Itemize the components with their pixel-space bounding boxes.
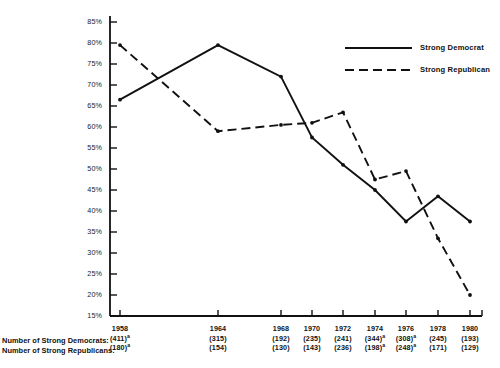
data-point [404, 169, 408, 173]
data-point [373, 178, 377, 182]
y-axis-tick-label: 55% [68, 143, 102, 152]
data-point [216, 43, 220, 47]
footer-count-number: (198) [365, 343, 382, 352]
x-axis-year-label: 1964 [194, 324, 242, 334]
chart-screenshot: 85%80%75%70%65%60%55%50%45%40%35%30%25%2… [0, 0, 500, 368]
y-axis-tick-label: 20% [68, 290, 102, 299]
y-axis-tick-label: 75% [68, 59, 102, 68]
footer-label-republicans: Number of Strong Republicans: [2, 346, 115, 356]
footnote-marker: a [127, 342, 130, 348]
chart-axes [110, 16, 482, 316]
footer-count-value: (315) [194, 334, 242, 344]
data-point [373, 188, 377, 192]
footer-count-number: (171) [429, 343, 446, 352]
footer-count-number: (344) [365, 334, 382, 343]
x-axis-column: 1964(315)(154) [194, 324, 242, 353]
footer-count-number: (241) [334, 334, 351, 343]
data-point [310, 136, 314, 140]
footer-count-number: (245) [429, 334, 446, 343]
footer-label-democrats: Number of Strong Democrats: [2, 336, 115, 346]
y-axis-tick-label: 65% [68, 101, 102, 110]
data-point [118, 98, 122, 102]
data-point [118, 43, 122, 47]
footer-count-number: (154) [209, 343, 226, 352]
data-point [216, 129, 220, 133]
data-point [341, 110, 345, 114]
footer-count-number: (315) [209, 334, 226, 343]
y-axis-tick-label: 45% [68, 185, 102, 194]
x-axis-column: 1980(193)(129) [446, 324, 494, 353]
footer-count-value: (193) [446, 334, 494, 344]
footer-count-number: (308) [396, 334, 413, 343]
y-axis-tick-label: 60% [68, 122, 102, 131]
y-axis-tick-label: 35% [68, 227, 102, 236]
footer-count-value: (154) [194, 343, 242, 353]
y-axis-tick-label: 40% [68, 206, 102, 215]
footnote-marker: a [127, 332, 130, 338]
footer-count-number: (129) [461, 343, 478, 352]
legend-label-strong-republican: Strong Republican [420, 65, 490, 74]
chart-series [118, 43, 472, 297]
data-point [468, 293, 472, 297]
y-axis-tick-label: 70% [68, 80, 102, 89]
footer-count-number: (248) [396, 343, 413, 352]
footer-count-number: (193) [461, 334, 478, 343]
series-line-strong-republican [120, 45, 470, 295]
y-axis-tick-label: 80% [68, 38, 102, 47]
legend-line-swatches [345, 48, 412, 70]
y-axis-tick-label: 50% [68, 164, 102, 173]
footer-count-number: (236) [334, 343, 351, 352]
data-point [436, 194, 440, 198]
data-point [279, 123, 283, 127]
footer-row-labels: Number of Strong Democrats: Number of St… [2, 336, 115, 355]
legend-label-strong-democrat: Strong Democrat [420, 43, 484, 52]
x-axis-year-label: 1958 [96, 324, 144, 334]
data-point [404, 220, 408, 224]
y-axis-tick-label: 25% [68, 269, 102, 278]
data-point [341, 163, 345, 167]
y-axis-tick-label: 30% [68, 248, 102, 257]
data-point [310, 121, 314, 125]
y-axis-tick-label: 15% [68, 311, 102, 320]
series-line-strong-democrat [120, 45, 470, 221]
y-axis-tick-label: 85% [68, 17, 102, 26]
x-axis-year-label: 1980 [446, 324, 494, 334]
data-point [468, 220, 472, 224]
data-point [279, 75, 283, 79]
data-point [436, 236, 440, 240]
footer-count-value: (129) [446, 343, 494, 353]
